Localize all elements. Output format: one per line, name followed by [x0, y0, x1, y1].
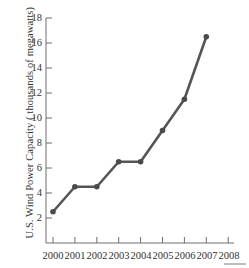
data-point-2001: [72, 184, 78, 190]
data-point-2007: [204, 34, 210, 40]
corner-artifact: [224, 263, 246, 265]
data-point-2002: [94, 184, 100, 190]
wind-power-capacity-chart: U.S. Wind Power Capacity ( thousands of …: [0, 0, 249, 268]
data-point-2000: [50, 209, 56, 215]
y-axis-ticks: [46, 18, 52, 218]
data-point-2003: [116, 159, 122, 165]
data-point-2004: [138, 159, 144, 165]
data-point-2006: [182, 96, 188, 102]
plot-area: [0, 0, 249, 268]
data-point-2005: [160, 128, 166, 134]
data-point-markers: [50, 34, 209, 215]
x-axis-ticks: [53, 237, 228, 243]
